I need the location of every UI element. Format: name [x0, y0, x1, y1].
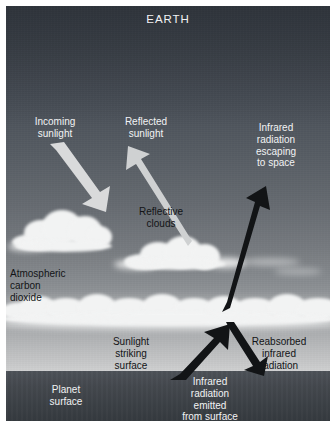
label-reflected-sunlight: Reflected sunlight [104, 116, 188, 140]
greenhouse-effect-figure: EARTH Incoming sunlight Reflected sunlig… [0, 0, 335, 426]
label-incoming-sunlight: Incoming sunlight [12, 116, 98, 140]
infrared-escaping-arrow [214, 184, 280, 314]
label-infrared-escaping-to-space: Infrared radiation escaping to space [234, 122, 318, 169]
page-title: EARTH [6, 13, 330, 27]
illustration-frame: EARTH Incoming sunlight Reflected sunlig… [6, 6, 330, 421]
label-reabsorbed-infrared-radiation: Reabsorbed infrared radiation [232, 336, 326, 371]
label-infrared-radiation-emitted-from-surface: Infrared radiation emitted from surface [158, 376, 262, 421]
label-planet-surface: Planet surface [28, 384, 104, 408]
reflected-sunlight-arrow [110, 142, 192, 252]
label-atmospheric-carbon-dioxide: Atmospheric carbon dioxide [10, 268, 106, 303]
label-sunlight-striking-surface: Sunlight striking surface [90, 336, 172, 371]
label-reflective-clouds: Reflective clouds [118, 206, 204, 230]
